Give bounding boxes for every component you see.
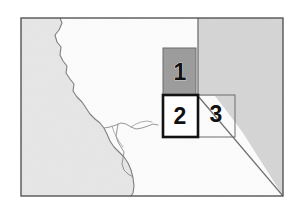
map-canvas: 1 3 2 [0, 0, 300, 213]
study-box-1[interactable]: 1 [163, 48, 196, 96]
study-box-2-label: 2 [174, 103, 187, 129]
map-figure: 1 3 2 [0, 0, 300, 213]
study-box-2[interactable]: 2 [163, 95, 198, 137]
scan-texture-overlay [21, 18, 283, 196]
study-box-3-label: 3 [210, 101, 223, 127]
study-box-1-label: 1 [174, 59, 187, 85]
